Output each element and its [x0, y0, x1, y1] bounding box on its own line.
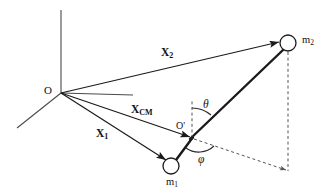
dashed-horizontal-from-cm [194, 139, 286, 170]
separation-axis [176, 50, 283, 160]
vector-x2-sub: 2 [169, 51, 173, 60]
vector-xcm-sub: CM [139, 108, 152, 117]
vector-xcm-label: XCM [131, 104, 153, 117]
vector-x1-label: X1 [96, 128, 108, 141]
mass2-label: m2 [302, 35, 314, 47]
cm-point-label: O' [176, 121, 185, 131]
cm-point-marker [190, 136, 193, 139]
coordinate-axes [17, 10, 133, 128]
phi-arc [186, 146, 214, 152]
origin-label: O [44, 85, 52, 96]
vector-x1-sub: 1 [104, 132, 108, 141]
separation-line-cm-to-m2 [190, 50, 283, 139]
vector-xcm-arrow [61, 93, 190, 137]
mass2-base: m [302, 34, 310, 45]
axis-horizontal [61, 93, 133, 95]
mass1-label: m1 [166, 177, 178, 189]
axis-diagonal [17, 93, 61, 128]
phi-label: φ [198, 154, 204, 166]
mass1-sub: 1 [174, 180, 178, 189]
mass2-circle [280, 35, 296, 51]
diagram-canvas [0, 0, 326, 193]
vector-x2-label: X2 [161, 47, 173, 60]
theta-label: θ [203, 99, 209, 111]
mass1-circle [163, 158, 179, 174]
physics-diagram: O O' X2 XCM X1 m1 m2 θ φ [0, 0, 326, 193]
mass1-base: m [166, 176, 174, 187]
separation-line-cm-to-m1 [176, 137, 193, 160]
mass2-sub: 2 [310, 38, 314, 47]
